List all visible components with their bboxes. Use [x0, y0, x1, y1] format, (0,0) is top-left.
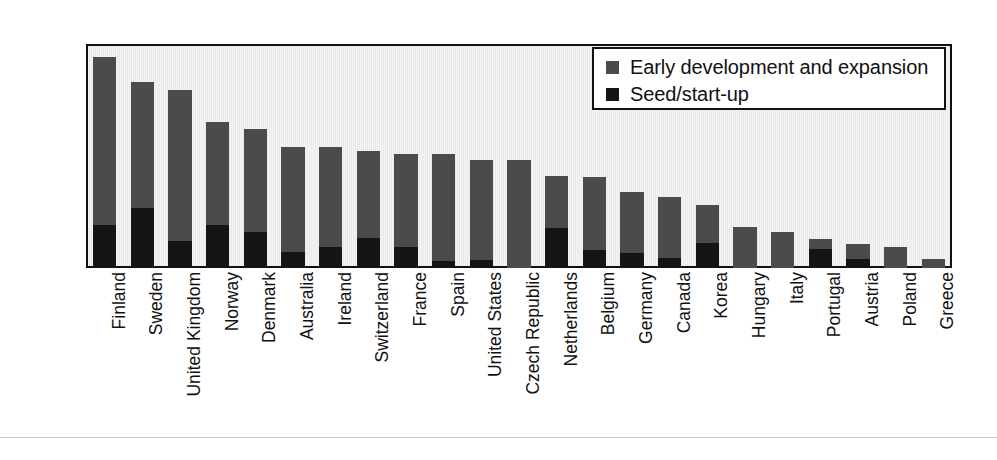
- x-axis-tick-label: Switzerland: [374, 272, 392, 362]
- bar-column: [470, 160, 493, 268]
- bar-column: [394, 154, 417, 268]
- x-axis-tick-label: Austria: [864, 272, 882, 326]
- bar-segment-seed-start-up: [93, 225, 116, 268]
- bar-segment-early-development-and-expansion: [771, 232, 794, 268]
- figure-bottom-rule: [0, 437, 997, 438]
- legend-entry: Seed/start-up: [606, 81, 749, 107]
- bar-column: [319, 147, 342, 268]
- bar-column: [281, 147, 304, 268]
- x-axis-tick-label: Korea: [713, 272, 731, 319]
- x-axis-tick-label: Norway: [224, 272, 242, 331]
- bar-column: [884, 247, 907, 268]
- bar-segment-seed-start-up: [658, 258, 681, 268]
- bar-segment-seed-start-up: [696, 243, 719, 268]
- legend-entry-label: Seed/start-up: [630, 83, 749, 106]
- bar-segment-early-development-and-expansion: [470, 160, 493, 260]
- bar-segment-early-development-and-expansion: [319, 147, 342, 247]
- chart-figure: 0.250.200.150.100.050.00 FinlandSwedenUn…: [0, 0, 997, 460]
- bar-segment-seed-start-up: [809, 249, 832, 268]
- bar-segment-early-development-and-expansion: [432, 154, 455, 261]
- bar-column: [206, 122, 229, 268]
- x-axis-tick-label: Greece: [939, 272, 957, 329]
- bar-segment-seed-start-up: [281, 252, 304, 268]
- bar-column: [658, 197, 681, 268]
- x-axis-tick-label: Belgium: [600, 272, 618, 335]
- bar-segment-seed-start-up: [545, 228, 568, 268]
- bar-segment-early-development-and-expansion: [884, 247, 907, 268]
- bar-segment-early-development-and-expansion: [244, 129, 267, 232]
- legend-entry: Early development and expansion: [606, 54, 928, 80]
- bar-column: [93, 57, 116, 268]
- bar-column: [809, 239, 832, 268]
- bar-column: [432, 154, 455, 268]
- bar-column: [131, 82, 154, 268]
- bar-segment-seed-start-up: [432, 261, 455, 268]
- x-axis-tick-label: United States: [487, 272, 505, 377]
- bar-column: [168, 90, 191, 268]
- bar-segment-early-development-and-expansion: [583, 177, 606, 250]
- bar-segment-seed-start-up: [846, 259, 869, 268]
- bar-column: [545, 176, 568, 268]
- bar-segment-seed-start-up: [319, 247, 342, 268]
- x-axis-tick-label: Finland: [111, 272, 129, 329]
- bar-segment-seed-start-up: [357, 238, 380, 268]
- chart-legend: Early development and expansionSeed/star…: [592, 47, 946, 110]
- bar-segment-early-development-and-expansion: [733, 227, 756, 268]
- bar-segment-early-development-and-expansion: [206, 122, 229, 225]
- bar-segment-early-development-and-expansion: [620, 192, 643, 253]
- bar-segment-seed-start-up: [168, 241, 191, 268]
- x-axis-tick-label: Spain: [450, 272, 468, 317]
- bar-column: [771, 232, 794, 268]
- bar-segment-early-development-and-expansion: [507, 160, 530, 268]
- bar-segment-early-development-and-expansion: [281, 147, 304, 252]
- x-axis-tick-label: Netherlands: [563, 272, 581, 366]
- bar-segment-early-development-and-expansion: [658, 197, 681, 258]
- bar-segment-seed-start-up: [620, 253, 643, 268]
- bar-segment-early-development-and-expansion: [545, 176, 568, 228]
- x-axis-tick-label: Portugal: [826, 272, 844, 337]
- bar-column: [733, 227, 756, 268]
- bar-column: [244, 129, 267, 268]
- legend-color-swatch: [606, 61, 619, 74]
- bar-segment-seed-start-up: [394, 247, 417, 269]
- x-axis-tick-label: Poland: [902, 272, 920, 327]
- bar-column: [620, 192, 643, 268]
- x-axis-tick-label: France: [412, 272, 430, 326]
- x-axis-tick-label: Hungary: [751, 272, 769, 338]
- bar-segment-early-development-and-expansion: [696, 205, 719, 243]
- bar-segment-early-development-and-expansion: [846, 244, 869, 259]
- bar-segment-seed-start-up: [206, 225, 229, 268]
- bar-segment-early-development-and-expansion: [357, 151, 380, 239]
- legend-color-swatch: [606, 88, 619, 101]
- x-axis-tick-label: United Kingdom: [186, 272, 204, 397]
- bar-segment-early-development-and-expansion: [168, 90, 191, 241]
- bar-column: [357, 151, 380, 268]
- x-axis-tick-label: Canada: [676, 272, 694, 333]
- x-axis-labels: FinlandSwedenUnited KingdomNorwayDenmark…: [86, 272, 952, 432]
- bar-segment-early-development-and-expansion: [394, 154, 417, 246]
- bar-segment-early-development-and-expansion: [93, 57, 116, 225]
- legend-entry-label: Early development and expansion: [630, 56, 928, 79]
- bar-column: [507, 160, 530, 268]
- y-axis: 0.250.200.150.100.050.00: [0, 0, 86, 290]
- bar-column: [583, 177, 606, 268]
- bar-segment-early-development-and-expansion: [809, 239, 832, 249]
- bar-segment-seed-start-up: [131, 208, 154, 268]
- bar-segment-early-development-and-expansion: [922, 259, 945, 268]
- x-axis-tick-label: Australia: [299, 272, 317, 340]
- bar-column: [696, 205, 719, 268]
- x-axis-tick-label: Czech Republic: [525, 272, 543, 395]
- x-axis-tick-label: Denmark: [261, 272, 279, 343]
- bar-column: [922, 259, 945, 268]
- x-axis-tick-label: Germany: [638, 272, 656, 344]
- x-axis-tick-label: Italy: [789, 272, 807, 304]
- bar-segment-seed-start-up: [244, 232, 267, 268]
- bar-segment-seed-start-up: [583, 250, 606, 268]
- x-axis-tick-label: Sweden: [148, 272, 166, 335]
- bar-segment-early-development-and-expansion: [131, 82, 154, 208]
- bar-column: [846, 244, 869, 268]
- x-axis-tick-label: Ireland: [337, 272, 355, 326]
- bar-segment-seed-start-up: [470, 260, 493, 268]
